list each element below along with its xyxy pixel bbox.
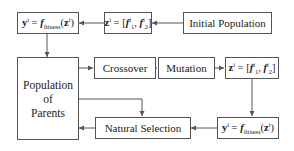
mutation-box: Mutation	[158, 57, 215, 79]
encode-box-top: zi = [fi1, fi2]	[104, 12, 152, 34]
population-of-parents-box: Population of Parents	[17, 57, 79, 140]
initial-population-box: Initial Population	[183, 12, 272, 34]
fitness-box-top: yi = ffitness(zi)	[17, 12, 79, 34]
crossover-box: Crossover	[94, 57, 156, 79]
arrow-population-to-selection	[78, 99, 142, 116]
natural-selection-box: Natural Selection	[95, 117, 191, 139]
fitness-box-right: yi = ffitness(zi)	[217, 117, 279, 139]
encode-box-right: zi = [fi1, fi2]	[225, 57, 279, 79]
initial-population-label: Initial Population	[189, 17, 266, 29]
